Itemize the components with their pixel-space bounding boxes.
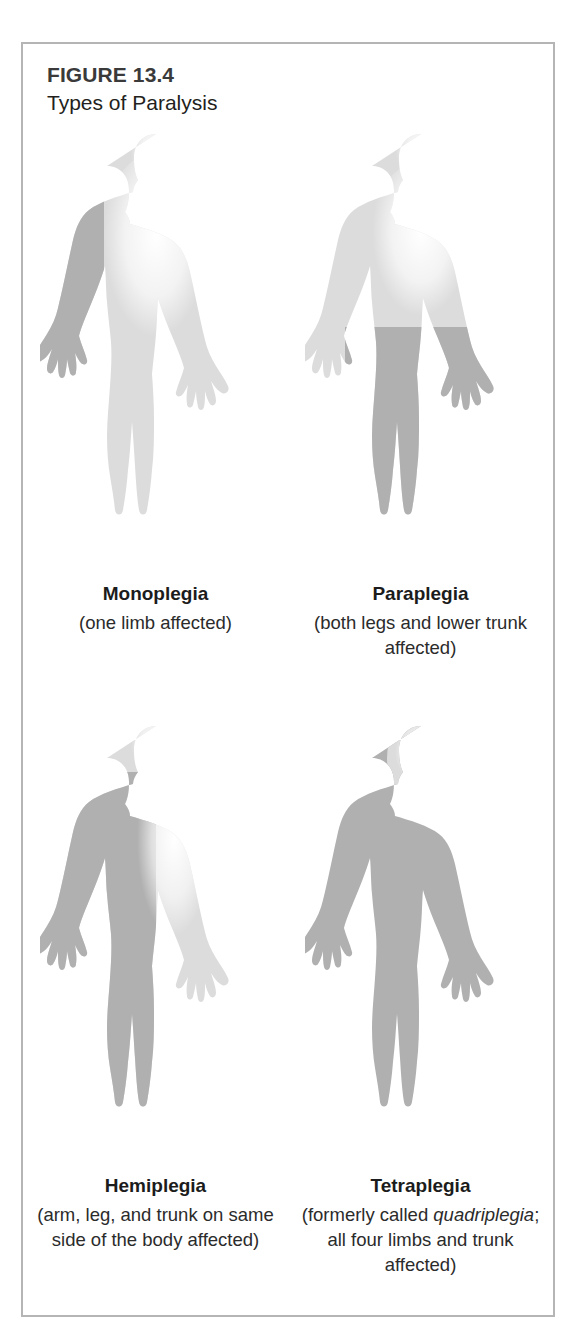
caption-text-before: (formerly called	[302, 1204, 434, 1225]
caption-term: Tetraplegia	[301, 1174, 541, 1198]
body-diagram-tetraplegia	[305, 714, 537, 1166]
caption-paraplegia: Paraplegia (both legs and lower trunk af…	[301, 582, 541, 661]
paralysis-types-grid: Monoplegia (one limb affected)	[23, 122, 553, 1314]
body-diagram-monoplegia	[40, 122, 272, 574]
panel-paraplegia: Paraplegia (both legs and lower trunk af…	[288, 122, 553, 714]
panel-monoplegia: Monoplegia (one limb affected)	[23, 122, 288, 714]
body-diagram-hemiplegia	[40, 714, 272, 1166]
figure-frame: FIGURE 13.4 Types of Paralysis	[21, 42, 555, 1317]
caption-term: Paraplegia	[301, 582, 541, 606]
caption-monoplegia: Monoplegia (one limb affected)	[36, 582, 276, 636]
caption-term: Monoplegia	[36, 582, 276, 606]
caption-text-italic: quadriplegia	[433, 1204, 534, 1225]
panel-tetraplegia: Tetraplegia (formerly called quadriplegi…	[288, 714, 553, 1314]
caption-description: (both legs and lower trunk affected)	[301, 611, 541, 661]
caption-tetraplegia: Tetraplegia (formerly called quadriplegi…	[301, 1174, 541, 1278]
figure-header: FIGURE 13.4 Types of Paralysis	[23, 44, 553, 117]
caption-description: (arm, leg, and trunk on same side of the…	[36, 1203, 276, 1253]
caption-term: Hemiplegia	[36, 1174, 276, 1198]
caption-description: (one limb affected)	[36, 611, 276, 636]
caption-description: (formerly called quadriplegia; all four …	[301, 1203, 541, 1278]
figure-title: Types of Paralysis	[47, 89, 553, 116]
figure-number: FIGURE 13.4	[47, 62, 553, 88]
panel-hemiplegia: Hemiplegia (arm, leg, and trunk on same …	[23, 714, 288, 1314]
body-diagram-paraplegia	[305, 122, 537, 574]
caption-hemiplegia: Hemiplegia (arm, leg, and trunk on same …	[36, 1174, 276, 1253]
